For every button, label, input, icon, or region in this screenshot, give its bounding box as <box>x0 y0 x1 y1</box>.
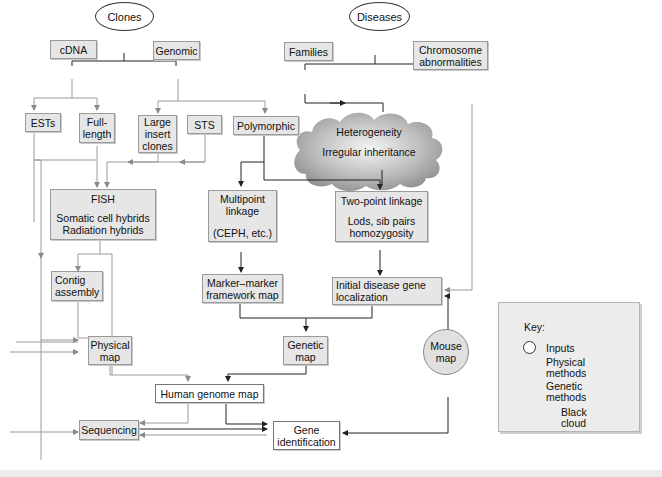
initial-label-1: Initial disease gene <box>336 279 426 291</box>
families-node: Families <box>284 42 333 61</box>
multipoint-linkage-node: Multipointlinkage(CEPH, etc.) <box>208 190 277 242</box>
diseases-input: Diseases <box>349 2 410 31</box>
contig-assembly-node: Contigassembly <box>51 271 103 301</box>
key-genetic-label: Geneticmethods <box>546 381 586 403</box>
key-cloud-label: Blackcloud <box>561 407 587 429</box>
legend-key: Key: Inputs Physicalmethods Geneticmetho… <box>498 302 640 432</box>
physical-map-label-1: Physical <box>90 339 129 351</box>
mouse-map-label-1: Mouse <box>430 340 462 352</box>
gene-id-label-1: Gene <box>294 424 320 436</box>
sts-node: STS <box>187 115 222 134</box>
fish-line-2: Radiation hybrids <box>62 224 143 236</box>
chromosome-label-2: abnormalities <box>419 56 481 68</box>
ests-label: ESTs <box>31 117 56 129</box>
fish-node: FISHSomatic cell hybridsRadiation hybrid… <box>50 189 156 240</box>
physical-map-node: Physicalmap <box>88 336 132 365</box>
caption-strip <box>0 470 662 477</box>
key-title: Key: <box>524 321 545 333</box>
cdna-node: cDNA <box>50 40 97 59</box>
key-inputs-circle-icon <box>523 341 536 354</box>
diseases-label: Diseases <box>357 11 402 23</box>
genetic-map-node: Geneticmap <box>283 336 328 365</box>
human-genome-map-label: Human genome map <box>160 388 258 400</box>
sts-label: STS <box>194 119 214 131</box>
key-physical-2: methods <box>546 368 586 379</box>
key-physical-label: Physicalmethods <box>546 357 586 379</box>
genomic-node: Genomic <box>153 41 200 60</box>
full-length-node: Full-length <box>79 113 115 143</box>
ests-node: ESTs <box>25 113 61 132</box>
two-point-linkage-node: Two-point linkageLods, sib pairshomozygo… <box>335 191 428 242</box>
human-genome-map-node: Human genome map <box>155 384 264 403</box>
contig-label-1: Contig <box>55 274 99 286</box>
polymorphic-node: Polymorphic <box>233 116 299 135</box>
cloud-heterogeneity: Heterogeneity <box>305 126 433 138</box>
large-insert-label-3: clones <box>142 140 172 152</box>
large-insert-clones-node: Largeinsertclones <box>138 115 177 153</box>
physical-map-label-2: map <box>100 351 120 363</box>
gene-id-label-2: identification <box>277 436 335 448</box>
chromosome-label-1: Chromosome <box>419 44 482 56</box>
cloud-irregular-inheritance: Irregular inheritance <box>305 146 433 158</box>
sequencing-node: Sequencing <box>79 420 139 440</box>
marker-label-2: framework map <box>206 289 278 301</box>
initial-disease-gene-node: Initial disease genelocalization <box>332 277 442 305</box>
initial-label-2: localization <box>336 291 426 303</box>
mouse-map-input: Mousemap <box>423 329 469 375</box>
marker-label-1: Marker–marker <box>207 277 278 289</box>
multipoint-label-2: linkage <box>226 205 259 217</box>
twopoint-title: Two-point linkage <box>341 195 423 207</box>
twopoint-line-2: homozygosity <box>349 227 413 239</box>
key-inputs-label: Inputs <box>546 342 575 354</box>
contig-label-2: assembly <box>55 286 99 298</box>
cloud-text: Heterogeneity Irregular inheritance <box>305 126 433 158</box>
large-insert-label-2: insert <box>145 128 171 140</box>
mouse-map-label-2: map <box>436 352 456 364</box>
gene-identification-node: Geneidentification <box>273 421 340 450</box>
cdna-label: cDNA <box>60 44 87 56</box>
full-length-label-2: length <box>83 128 112 140</box>
key-genetic-2: methods <box>546 392 586 403</box>
multipoint-label-1: Multipoint <box>220 193 265 205</box>
fish-title: FISH <box>91 193 115 205</box>
large-insert-label-1: Large <box>144 116 171 128</box>
chromosome-node: Chromosomeabnormalities <box>413 41 488 70</box>
polymorphic-label: Polymorphic <box>237 120 295 132</box>
fish-line-1: Somatic cell hybrids <box>56 212 149 224</box>
full-length-label-1: Full- <box>87 116 107 128</box>
clones-input: Clones <box>95 2 154 31</box>
multipoint-sub: (CEPH, etc.) <box>213 227 272 239</box>
genetic-map-label-1: Genetic <box>287 339 323 351</box>
clones-label: Clones <box>107 11 141 23</box>
twopoint-line-1: Lods, sib pairs <box>348 215 416 227</box>
key-cloud-2: cloud <box>561 418 587 429</box>
genomic-label: Genomic <box>156 45 198 57</box>
marker-framework-map-node: Marker–markerframework map <box>202 274 283 303</box>
families-label: Families <box>289 46 328 58</box>
sequencing-label: Sequencing <box>81 424 136 436</box>
genetic-map-label-2: map <box>295 351 315 363</box>
